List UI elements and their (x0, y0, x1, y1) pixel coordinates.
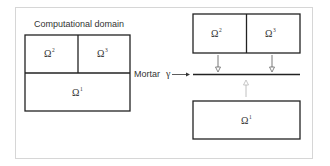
svg-text:3: 3 (105, 47, 108, 53)
left-omega1-label: Ω 1 (72, 86, 83, 98)
mortar-label: Mortar (134, 69, 160, 79)
left-omega3-label: Ω 3 (97, 47, 108, 59)
svg-text:Ω: Ω (265, 28, 272, 39)
right-omega2-label: Ω 2 (211, 27, 222, 39)
svg-text:3: 3 (273, 27, 276, 33)
svg-text:Ω: Ω (211, 28, 218, 39)
domain-decomposition-diagram: Computational domain Ω 2 Ω 3 Ω 1 Mortar … (0, 0, 330, 166)
svg-text:2: 2 (219, 27, 222, 33)
mortar-annotation: Mortar γ (134, 68, 190, 79)
left-omega2-label: Ω 2 (44, 47, 55, 59)
mortar-pointer-arrow-icon (186, 73, 190, 77)
right-omega1-label: Ω 1 (241, 114, 252, 126)
down-arrow-omega3-icon (270, 55, 275, 72)
mortar-gamma-symbol: γ (165, 68, 171, 79)
computational-domain: Computational domain Ω 2 Ω 3 Ω 1 (25, 19, 130, 111)
right-omega3-label: Ω 3 (265, 27, 276, 39)
up-arrow-omega1-icon (244, 80, 249, 97)
svg-text:Ω: Ω (241, 115, 248, 126)
computational-domain-label: Computational domain (34, 19, 124, 29)
svg-text:Ω: Ω (44, 48, 51, 59)
svg-text:2: 2 (52, 47, 55, 53)
svg-text:1: 1 (80, 86, 83, 92)
svg-text:1: 1 (249, 114, 252, 120)
svg-text:Ω: Ω (97, 48, 104, 59)
svg-text:Ω: Ω (72, 87, 79, 98)
decomposed-view: Ω 2 Ω 3 Ω 1 (193, 14, 300, 139)
down-arrow-omega2-icon (216, 55, 221, 72)
